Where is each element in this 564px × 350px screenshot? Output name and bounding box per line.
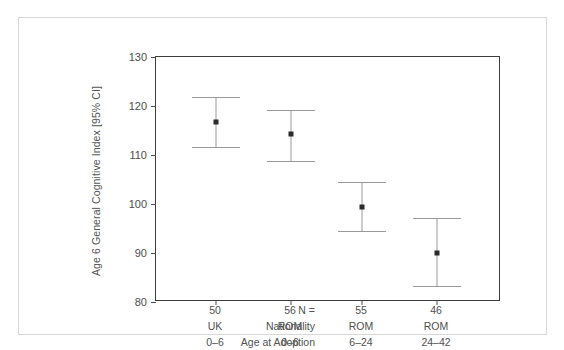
plot-area: 130 120 110 100 90 80 xyxy=(155,56,500,301)
bottom-annotation-table: N = Nationality Age at Adoption 50UK0–65… xyxy=(19,304,548,350)
error-bar-upper-cap xyxy=(413,218,461,219)
y-axis-tick-label: 120 xyxy=(129,100,151,112)
cell-n: 50 xyxy=(209,304,221,316)
y-axis-tick-110: 110 xyxy=(129,149,156,161)
cell-n: 46 xyxy=(430,304,442,316)
error-bar-upper-cap xyxy=(338,182,386,183)
y-axis-tick-130: 130 xyxy=(129,51,156,63)
cell-nationality: ROM xyxy=(424,320,449,332)
row-header-age-at-adoption: Age at Adoption xyxy=(155,336,325,348)
cell-n: 56 xyxy=(284,304,296,316)
error-bar-lower-cap xyxy=(267,161,315,162)
y-axis-tick-mark xyxy=(151,155,156,156)
y-axis-tick-90: 90 xyxy=(135,247,156,259)
cell-n: 55 xyxy=(355,304,367,316)
error-bar-lower-cap xyxy=(413,286,461,287)
figure-container: Age 6 General Cognitive Index [95% CI] 1… xyxy=(0,0,564,350)
cell-age-at-adoption: 0–6 xyxy=(281,336,299,348)
y-axis-tick-label: 110 xyxy=(129,149,151,161)
data-point-marker xyxy=(289,131,294,136)
y-axis-tick-mark xyxy=(151,57,156,58)
y-axis-tick-label: 130 xyxy=(129,51,151,63)
error-bar-lower-cap xyxy=(338,231,386,232)
y-axis-tick-label: 90 xyxy=(135,247,151,259)
y-axis-tick-mark xyxy=(151,302,156,303)
cell-nationality: ROM xyxy=(278,320,303,332)
error-bar-group xyxy=(338,57,386,302)
data-point-marker xyxy=(214,119,219,124)
error-bar-upper-cap xyxy=(267,110,315,111)
y-axis-tick-mark xyxy=(151,204,156,205)
y-axis-tick-mark xyxy=(151,106,156,107)
cell-nationality: ROM xyxy=(349,320,374,332)
data-point-marker xyxy=(435,250,440,255)
error-bar-upper-cap xyxy=(192,97,240,98)
y-axis-tick-mark xyxy=(151,253,156,254)
error-bar-group xyxy=(267,57,315,302)
error-bar-group xyxy=(413,57,461,302)
cell-age-at-adoption: 0–6 xyxy=(206,336,224,348)
data-point-marker xyxy=(360,205,365,210)
cell-nationality: UK xyxy=(208,320,223,332)
error-bar-lower-cap xyxy=(192,147,240,148)
error-bar-group xyxy=(192,57,240,302)
cell-age-at-adoption: 24–42 xyxy=(421,336,450,348)
y-axis-tick-100: 100 xyxy=(129,198,156,210)
y-axis-tick-120: 120 xyxy=(129,100,156,112)
y-axis-title: Age 6 General Cognitive Index [95% CI] xyxy=(90,56,102,306)
y-axis-tick-label: 100 xyxy=(129,198,151,210)
figure-outer-border: Age 6 General Cognitive Index [95% CI] 1… xyxy=(18,17,547,335)
row-header-n: N = xyxy=(155,304,325,316)
cell-age-at-adoption: 6–24 xyxy=(349,336,372,348)
